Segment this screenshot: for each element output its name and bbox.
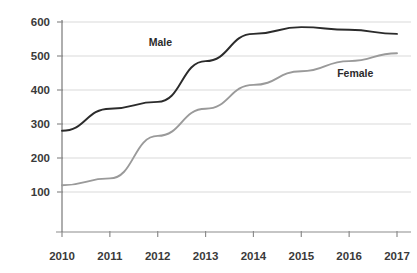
chart-plot-area [0,0,417,273]
x-axis-tick-label: 2017 [373,250,417,262]
line-chart: 600500400300200100 201020112012201320142… [0,0,417,273]
series-label-female: Female [337,67,373,79]
x-axis-tick-label: 2016 [325,250,373,262]
series-label-male: Male [149,36,172,48]
data-series [62,27,397,185]
x-axis-tick-label: 2012 [134,250,182,262]
y-axis-tick-label: 300 [10,118,50,130]
gridlines [62,22,411,192]
y-axis-tick-label: 200 [10,152,50,164]
x-axis-tick-label: 2010 [38,250,86,262]
axis-ticks [57,22,397,237]
x-axis-tick-label: 2011 [86,250,134,262]
x-axis-tick-label: 2015 [277,250,325,262]
y-axis-tick-label: 100 [10,186,50,198]
axes [56,20,411,232]
x-axis-tick-label: 2013 [182,250,230,262]
y-axis-tick-label: 600 [10,16,50,28]
y-axis-tick-label: 500 [10,50,50,62]
y-axis-tick-label: 400 [10,84,50,96]
x-axis-tick-label: 2014 [229,250,277,262]
